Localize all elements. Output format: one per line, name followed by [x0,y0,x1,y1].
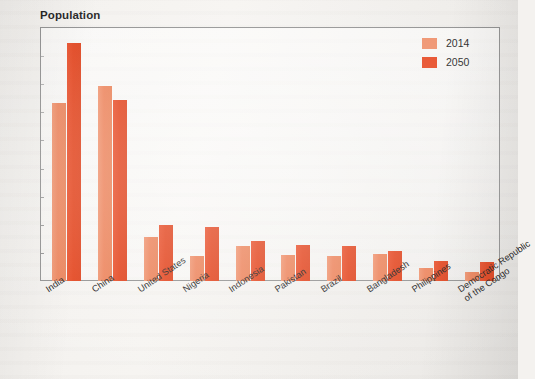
legend-item: 2050 [422,56,488,68]
chart-title: Population [40,9,100,21]
legend-item: 2014 [422,37,488,49]
bar-2050 [67,43,81,281]
bar-group [190,28,219,281]
bar-group [144,28,173,281]
legend-color-swatch [422,38,437,49]
bar-group [281,28,310,281]
bar-2050 [342,246,356,281]
bar-group [98,28,127,281]
legend-label: 2050 [446,56,469,68]
bar-group [52,28,81,281]
chart-legend: 20142050 [415,33,493,72]
bar-group [236,28,265,281]
bar-2014 [52,103,66,282]
bar-group [327,28,356,281]
legend-color-swatch [422,57,437,68]
bar-2014 [98,86,112,281]
bar-group [373,28,402,281]
bar-2050 [113,100,127,281]
legend-label: 2014 [446,37,469,49]
